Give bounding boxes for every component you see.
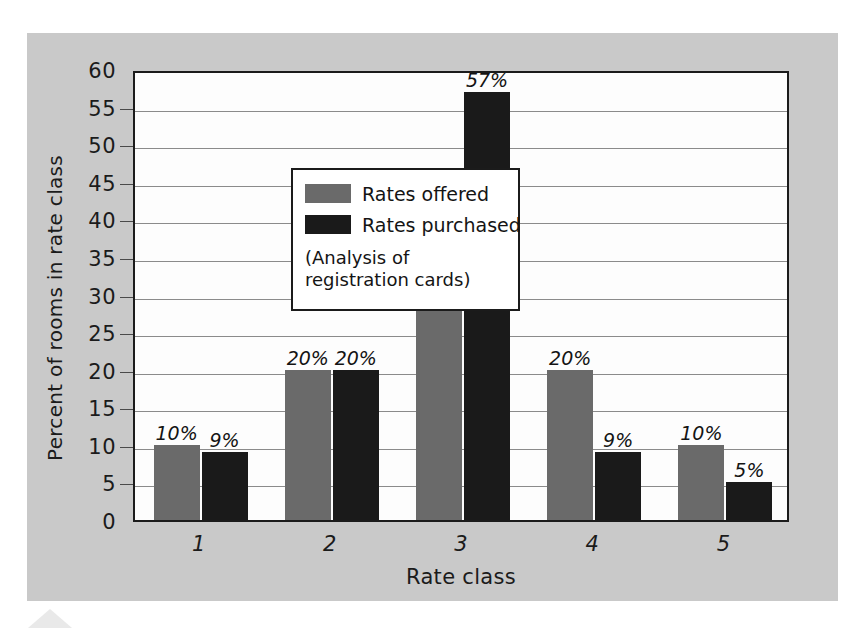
- y-axis-tick-label: 45: [52, 172, 116, 196]
- y-axis-tick-mark: [120, 146, 133, 147]
- x-axis-tick-label: 4: [527, 532, 657, 556]
- y-axis-tick-label: 10: [52, 435, 116, 459]
- y-axis-tick-mark: [120, 447, 133, 448]
- x-axis-tick-label: 5: [658, 532, 788, 556]
- legend-label-rates-offered: Rates offered: [362, 183, 489, 205]
- legend: Rates offered Rates purchased (Analysis …: [291, 168, 520, 311]
- bar-rates-offered-1: [154, 445, 200, 520]
- y-axis-tick-label: 20: [52, 360, 116, 384]
- gridline: [135, 148, 787, 149]
- y-axis-tick-label: 35: [52, 247, 116, 271]
- corner-triangle-marker: [28, 609, 72, 628]
- y-axis-tick-mark: [120, 109, 133, 110]
- chart-figure: Percent of rooms in rate class 605550454…: [0, 0, 861, 628]
- legend-note-line-2: registration cards): [305, 269, 518, 291]
- y-axis-tick-mark: [120, 259, 133, 260]
- bar-rates-purchased-4: [595, 452, 641, 520]
- y-axis-tick-label: 50: [52, 134, 116, 158]
- y-axis-tick-label: 25: [52, 322, 116, 346]
- bar-value-label: 20%: [313, 347, 399, 369]
- bar-rates-offered-5: [678, 445, 724, 520]
- x-axis-tick-label: 2: [265, 532, 395, 556]
- y-axis-tick-label: 15: [52, 397, 116, 421]
- x-axis-tick-label: 1: [134, 532, 264, 556]
- legend-label-rates-purchased: Rates purchased: [362, 214, 521, 236]
- y-axis-tick-mark: [120, 484, 133, 485]
- legend-note: (Analysis of registration cards): [305, 247, 518, 291]
- y-axis-tick-mark: [120, 297, 133, 298]
- y-axis-tick-label: 60: [52, 59, 116, 83]
- bar-value-label: 57%: [444, 69, 530, 91]
- y-axis-tick-mark: [120, 184, 133, 185]
- legend-swatch-rates-purchased: [305, 215, 351, 234]
- y-axis-tick-labels: 605550454035302520151050: [42, 0, 116, 628]
- y-axis-tick-mark: [120, 221, 133, 222]
- y-axis-tick-label: 40: [52, 209, 116, 233]
- legend-swatch-rates-offered: [305, 184, 351, 203]
- bar-rates-purchased-2: [333, 370, 379, 520]
- y-axis-tick-label: 30: [52, 285, 116, 309]
- y-axis-tick-label: 0: [52, 510, 116, 534]
- gridline: [135, 111, 787, 112]
- x-axis-tick-label: 3: [396, 532, 526, 556]
- x-axis-title: Rate class: [133, 565, 789, 589]
- legend-item-rates-offered: Rates offered: [305, 180, 518, 207]
- y-axis-tick-mark: [120, 334, 133, 335]
- bar-rates-offered-2: [285, 370, 331, 520]
- y-axis-tick-label: 5: [52, 472, 116, 496]
- bar-value-label: 9%: [575, 429, 661, 451]
- bar-value-label: 10%: [658, 422, 744, 444]
- plot-area: 10%9%20%20%40%57%20%9%10%5% Rates offere…: [133, 71, 789, 522]
- y-axis-tick-label: 55: [52, 97, 116, 121]
- y-axis-tick-mark: [120, 409, 133, 410]
- bar-value-label: 20%: [527, 347, 613, 369]
- y-axis-tick-mark: [120, 372, 133, 373]
- bar-rates-purchased-5: [726, 482, 772, 520]
- legend-item-rates-purchased: Rates purchased: [305, 211, 518, 238]
- bar-value-label: 5%: [706, 459, 792, 481]
- bar-value-label: 9%: [182, 429, 268, 451]
- legend-note-line-1: (Analysis of: [305, 247, 518, 269]
- bar-rates-purchased-1: [202, 452, 248, 520]
